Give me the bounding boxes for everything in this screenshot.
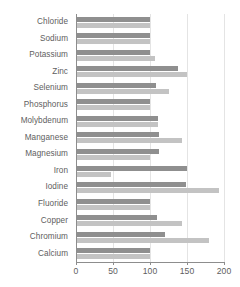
bar xyxy=(76,138,182,143)
bar xyxy=(76,149,159,154)
y-axis-tick-label: Sodium xyxy=(0,31,72,48)
bar xyxy=(76,205,150,210)
y-axis-tick-label: Magnesium xyxy=(0,146,72,163)
bar xyxy=(76,116,158,121)
bar-group xyxy=(76,64,224,81)
bar xyxy=(76,182,186,187)
bar xyxy=(76,221,182,226)
bar-group xyxy=(76,196,224,213)
bar xyxy=(76,89,169,94)
bar xyxy=(76,238,209,243)
bar-group xyxy=(76,212,224,229)
bar-group xyxy=(76,31,224,48)
y-axis-tick-label: Fluoride xyxy=(0,196,72,213)
bar-group xyxy=(76,47,224,64)
bar-group xyxy=(76,179,224,196)
category-label-text: Copper xyxy=(41,217,68,225)
bar xyxy=(76,132,159,137)
x-tick-mark xyxy=(187,262,188,265)
bar-group xyxy=(76,130,224,147)
y-axis-tick-label: Iron xyxy=(0,163,72,180)
category-label-text: Selenium xyxy=(33,84,68,92)
bar xyxy=(76,72,187,77)
bar xyxy=(76,166,187,171)
category-label-text: Phosphorus xyxy=(24,101,68,109)
bar xyxy=(76,188,219,193)
x-tick-label: 50 xyxy=(108,267,118,276)
bar xyxy=(76,33,150,38)
category-label-text: Iodine xyxy=(45,183,68,191)
bar-group xyxy=(76,80,224,97)
y-axis-tick-label: Chloride xyxy=(0,14,72,31)
category-label-text: Chloride xyxy=(37,18,68,26)
y-axis-tick-label: Potassium xyxy=(0,47,72,64)
bar xyxy=(76,232,165,237)
bar-chart: ChlorideSodiumPotassiumZincSeleniumPhosp… xyxy=(0,0,240,287)
y-axis-tick-label: Phosphorus xyxy=(0,97,72,114)
x-tick-mark xyxy=(150,262,151,265)
x-tick-label: 150 xyxy=(180,267,194,276)
y-axis-tick-label: Zinc xyxy=(0,64,72,81)
category-label-text: Potassium xyxy=(29,51,68,59)
bar xyxy=(76,83,156,88)
x-tick-mark xyxy=(113,262,114,265)
bar xyxy=(76,248,150,253)
category-label-text: Calcium xyxy=(38,250,68,258)
category-label-text: Sodium xyxy=(40,35,68,43)
bar xyxy=(76,105,150,110)
bar-group xyxy=(76,163,224,180)
bar xyxy=(76,172,111,177)
bar-group xyxy=(76,146,224,163)
category-label-text: Zinc xyxy=(52,68,68,76)
category-label-text: Chromium xyxy=(30,233,68,241)
y-axis-category-labels: ChlorideSodiumPotassiumZincSeleniumPhosp… xyxy=(0,14,72,262)
bar xyxy=(76,254,150,259)
category-label-text: Molybdenum xyxy=(21,117,68,125)
bar xyxy=(76,155,150,160)
bar-group xyxy=(76,113,224,130)
y-axis-tick-label: Chromium xyxy=(0,229,72,246)
x-tick-label: 200 xyxy=(217,267,231,276)
bar xyxy=(76,39,150,44)
bar xyxy=(76,99,150,104)
category-label-text: Manganese xyxy=(25,134,68,142)
bar xyxy=(76,50,150,55)
category-label-text: Iron xyxy=(54,167,68,175)
y-axis-tick-label: Manganese xyxy=(0,130,72,147)
plot-area xyxy=(76,14,224,262)
category-label-text: Magnesium xyxy=(25,150,68,158)
bar xyxy=(76,66,178,71)
bar xyxy=(76,56,155,61)
bar xyxy=(76,122,158,127)
y-axis-tick-label: Calcium xyxy=(0,245,72,262)
x-tick-mark xyxy=(76,262,77,265)
bar xyxy=(76,199,150,204)
bar xyxy=(76,23,150,28)
x-tick-label: 0 xyxy=(74,267,79,276)
bar xyxy=(76,17,150,22)
y-axis-line xyxy=(76,14,77,262)
bar-group xyxy=(76,229,224,246)
x-tick-label: 100 xyxy=(143,267,157,276)
y-axis-tick-label: Selenium xyxy=(0,80,72,97)
bar-group xyxy=(76,14,224,31)
bar-group xyxy=(76,97,224,114)
category-label-text: Fluoride xyxy=(38,200,68,208)
y-axis-tick-label: Iodine xyxy=(0,179,72,196)
gridline-200 xyxy=(224,14,225,262)
x-tick-mark xyxy=(224,262,225,265)
bar xyxy=(76,215,157,220)
y-axis-tick-label: Copper xyxy=(0,212,72,229)
bar-group xyxy=(76,245,224,262)
y-axis-tick-label: Molybdenum xyxy=(0,113,72,130)
